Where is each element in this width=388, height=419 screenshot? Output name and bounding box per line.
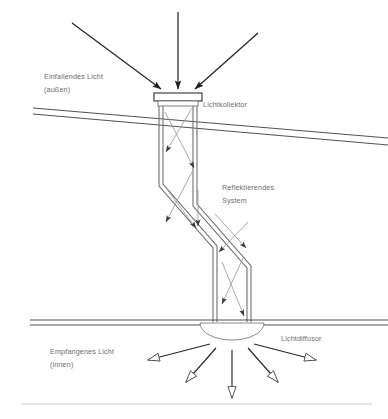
label-reflective-system-line2: System	[222, 196, 247, 205]
light-collector	[154, 93, 202, 106]
diagram-background	[0, 0, 388, 419]
label-incoming-light-line2: (außen)	[44, 85, 70, 94]
label-incoming-light-line1: Einfallendes Licht	[44, 72, 103, 81]
label-received-light-line2: (innen)	[50, 360, 73, 369]
label-diffusor: Lichtdiffusor	[281, 334, 322, 343]
diagram-canvas: Einfallendes Licht (außen) Lichtkollekto…	[0, 0, 388, 419]
light-tube-diagram: Einfallendes Licht (außen) Lichtkollekto…	[0, 0, 388, 419]
collector-cap-top	[154, 93, 202, 101]
label-received-light-line1: Empfangenes Licht	[50, 347, 114, 356]
collector-collar	[158, 101, 198, 106]
label-reflective-system-line1: Reflektierendes	[222, 183, 274, 192]
label-collector: Lichtkollektor	[203, 100, 248, 109]
